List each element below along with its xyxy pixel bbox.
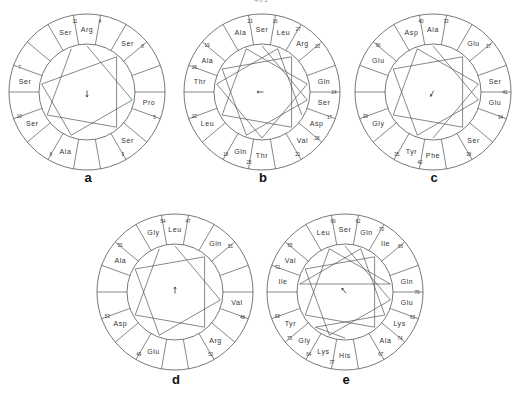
residue-number: 36 bbox=[376, 43, 382, 48]
residue-name: Phe bbox=[426, 152, 440, 159]
sector-divider bbox=[73, 139, 78, 169]
residue-number: 69 bbox=[330, 219, 336, 224]
sector-divider bbox=[270, 139, 275, 169]
residue-name: Val bbox=[231, 299, 242, 306]
residue-name: Val bbox=[285, 257, 296, 264]
residue-number: 68 bbox=[275, 314, 281, 319]
residue-number: 39 bbox=[363, 114, 369, 119]
residue-number: 4 bbox=[99, 19, 102, 24]
residue-number: 37 bbox=[486, 44, 492, 49]
helical-wheel-a: Arg4Ser11Ser8Ser7Pro5Ser10Ser9Ala6 bbox=[9, 14, 165, 170]
residue-name: Ile bbox=[278, 278, 287, 285]
sector-divider bbox=[307, 65, 335, 75]
residue-number: 33 bbox=[443, 19, 449, 24]
residue-name: Arg bbox=[81, 26, 94, 34]
panel-label-a: a bbox=[78, 170, 98, 185]
residue-name: Leu bbox=[168, 226, 181, 233]
residue-number: 75 bbox=[287, 336, 293, 341]
sector-divider bbox=[183, 339, 188, 369]
residue-number: 52 bbox=[208, 352, 214, 357]
residue-name: Gly bbox=[298, 337, 310, 345]
residue-name: Leu bbox=[277, 29, 290, 36]
residue-name: Thr bbox=[256, 152, 268, 159]
residue-number: 70 bbox=[414, 290, 420, 295]
residue-name: Gln bbox=[360, 229, 373, 236]
residue-number: 24 bbox=[331, 90, 337, 95]
residue-name: Leu bbox=[201, 120, 214, 127]
helical-wheel-figure: Arg4Ser11Ser8Ser7Pro5Ser10Ser9Ala6 Ser16… bbox=[0, 0, 523, 402]
residue-number: 23 bbox=[247, 19, 253, 24]
residue-number: 48 bbox=[240, 315, 246, 320]
panel-label-b: b bbox=[253, 170, 273, 185]
sector-divider bbox=[132, 108, 160, 118]
residue-number: 65 bbox=[288, 243, 294, 248]
sector-divider bbox=[27, 42, 50, 61]
residue-number: 35 bbox=[394, 152, 400, 157]
residue-name: Pro bbox=[143, 99, 156, 106]
residue-name: Asp bbox=[405, 29, 419, 37]
residue-name: Ser bbox=[26, 120, 39, 127]
residue-number: 26 bbox=[192, 65, 198, 70]
residue-number: 63 bbox=[410, 315, 416, 320]
residue-name: Tyr bbox=[285, 320, 297, 328]
residue-name: His bbox=[339, 352, 351, 359]
residue-number: 41 bbox=[502, 90, 508, 95]
residue-number: 27 bbox=[296, 27, 302, 32]
residue-number: 28 bbox=[314, 136, 320, 141]
residue-number: 64 bbox=[306, 352, 312, 357]
residue-name: Ser bbox=[59, 29, 72, 36]
residue-number: 50 bbox=[118, 243, 124, 248]
residue-number: 22 bbox=[192, 114, 198, 119]
residue-name: Arg bbox=[209, 337, 222, 345]
residue-name: Gly bbox=[147, 229, 159, 237]
sector-divider bbox=[95, 139, 100, 169]
residue-name: Ala bbox=[60, 148, 72, 155]
sector-divider bbox=[132, 65, 160, 75]
residue-name: Ser bbox=[467, 137, 480, 144]
residue-number: 54 bbox=[160, 219, 166, 224]
residue-name: Ser bbox=[318, 99, 331, 106]
residue-name: Glu bbox=[467, 40, 480, 47]
residue-name: Lys bbox=[393, 320, 405, 328]
sector-divider bbox=[220, 265, 248, 275]
residue-number: 34 bbox=[498, 115, 504, 120]
residue-number: 66 bbox=[398, 244, 404, 249]
residue-number: 7 bbox=[18, 65, 21, 70]
residue-name: Val bbox=[297, 137, 308, 144]
sector-divider bbox=[353, 339, 358, 369]
residue-number: 16 bbox=[272, 19, 278, 24]
residue-name: Ser bbox=[121, 40, 134, 47]
sector-divider bbox=[478, 65, 506, 75]
residue-number: 73 bbox=[379, 227, 385, 232]
residue-name: Ile bbox=[381, 240, 390, 247]
residue-number: 21 bbox=[295, 152, 301, 157]
residue-number: 47 bbox=[185, 219, 191, 224]
residue-number: 25 bbox=[247, 160, 253, 165]
sector-divider bbox=[441, 139, 446, 169]
sector-divider bbox=[102, 265, 130, 275]
residue-number: 77 bbox=[330, 360, 336, 365]
residue-number: 67 bbox=[378, 352, 384, 357]
residue-name: Ala bbox=[235, 29, 247, 36]
residue-number: 42 bbox=[418, 160, 424, 165]
residue-name: Glu bbox=[489, 99, 502, 106]
residue-name: Ala bbox=[380, 337, 392, 344]
residue-name: Glu bbox=[401, 299, 414, 306]
panel-label-e: e bbox=[336, 372, 356, 387]
residue-name: Glu bbox=[147, 348, 160, 355]
residue-number: 10 bbox=[17, 114, 23, 119]
residue-name: Glu bbox=[372, 57, 385, 64]
residue-name: Ser bbox=[489, 78, 502, 85]
residue-name: Tyr bbox=[406, 148, 418, 156]
panel-label-d: d bbox=[166, 372, 186, 387]
residue-number: 51 bbox=[228, 244, 234, 249]
residue-name: Ser bbox=[339, 226, 352, 233]
helix-path bbox=[393, 46, 478, 138]
moment-arrow-icon bbox=[342, 288, 346, 293]
residue-name: Ser bbox=[121, 137, 134, 144]
residue-name: Ala bbox=[201, 57, 213, 64]
panel-label-c: c bbox=[424, 170, 444, 185]
residue-name: Leu bbox=[317, 229, 330, 236]
residue-number: 53 bbox=[105, 314, 111, 319]
residue-name: Gly bbox=[372, 120, 384, 128]
